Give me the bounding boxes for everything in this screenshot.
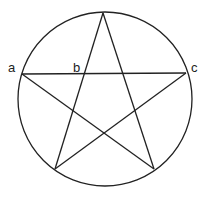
- circumscribed-circle: [18, 12, 192, 186]
- pentagram-diagram: a b c: [0, 0, 207, 199]
- edge-right-to-bottom-left: [55, 73, 186, 169]
- edge-top-to-bottom-right: [103, 13, 154, 169]
- edge-top-to-bottom-left: [55, 13, 103, 169]
- edge-left-to-bottom-right: [22, 74, 154, 169]
- label-a: a: [8, 60, 16, 75]
- chord-a-to-c: [22, 73, 186, 74]
- label-c: c: [191, 60, 198, 75]
- label-b: b: [73, 60, 80, 75]
